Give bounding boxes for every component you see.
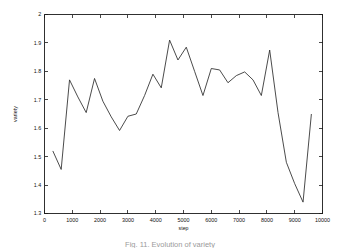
y-axis-title: variety (12, 106, 18, 122)
x-tick-label: 6000 (205, 217, 217, 223)
x-axis-tick-labels: 0100020003000400050006000700080009000100… (43, 217, 330, 223)
y-tick-label: 1.5 (34, 154, 42, 160)
data-series-group (53, 40, 312, 202)
y-tick-label: 1.7 (34, 97, 42, 103)
figure-container: 0100020003000400050006000700080009000100… (0, 0, 341, 248)
x-tick-label: 8000 (261, 217, 273, 223)
x-axis-ticks (45, 15, 323, 214)
y-tick-label: 1.9 (34, 40, 42, 46)
y-axis-ticks (45, 15, 323, 214)
variety-line-chart: 0100020003000400050006000700080009000100… (0, 0, 341, 248)
figure-caption: Fig. 11. Evolution of variety (125, 240, 215, 248)
x-axis-title: step (179, 225, 189, 231)
y-tick-label: 1.8 (34, 68, 42, 74)
x-tick-label: 1000 (66, 217, 78, 223)
y-tick-label: 1.6 (34, 125, 42, 131)
x-tick-label: 9000 (289, 217, 301, 223)
x-tick-label: 5000 (178, 217, 190, 223)
y-axis-tick-labels: 1.31.41.51.61.71.81.92 (34, 11, 42, 216)
y-tick-label: 1.4 (34, 182, 42, 188)
x-tick-label: 4000 (150, 217, 162, 223)
x-tick-label: 7000 (233, 217, 245, 223)
y-tick-label: 1.3 (34, 210, 42, 216)
x-tick-label: 0 (43, 217, 46, 223)
x-tick-label: 3000 (122, 217, 134, 223)
y-tick-label: 2 (38, 11, 41, 17)
x-tick-label: 10000 (315, 217, 330, 223)
x-tick-label: 2000 (94, 217, 106, 223)
plot-frame (45, 15, 323, 214)
series-line-variety (53, 40, 312, 202)
